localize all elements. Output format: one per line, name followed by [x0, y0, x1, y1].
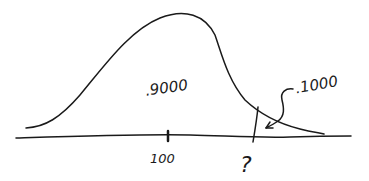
cutoff-unknown-label: ?: [240, 152, 252, 177]
x-axis-baseline: [16, 135, 351, 138]
normal-curve-diagram: .9000 .1000 100 ?: [0, 0, 369, 181]
mean-value-label: 100: [150, 151, 175, 166]
body-area-label: .9000: [144, 76, 189, 100]
bell-curve: [26, 13, 324, 134]
tail-area-label: .1000: [294, 72, 339, 97]
